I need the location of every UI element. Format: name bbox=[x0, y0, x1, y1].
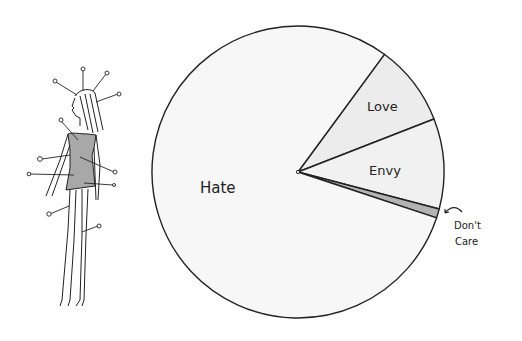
slice-label-care: Care bbox=[455, 236, 478, 247]
slice-label-envy: Envy bbox=[369, 163, 401, 178]
pie-chart: LoveEnvyHateDon'tCare bbox=[0, 0, 522, 341]
dont-care-arrow-icon bbox=[445, 208, 462, 213]
voodoo-doll-illustration bbox=[27, 67, 121, 306]
pie-center-dot bbox=[296, 170, 299, 173]
slice-label-hate: Hate bbox=[200, 179, 236, 197]
slice-label-don-t: Don't bbox=[454, 220, 481, 231]
chart-canvas: LoveEnvyHateDon'tCare bbox=[0, 0, 522, 341]
slice-label-love: Love bbox=[367, 99, 398, 114]
